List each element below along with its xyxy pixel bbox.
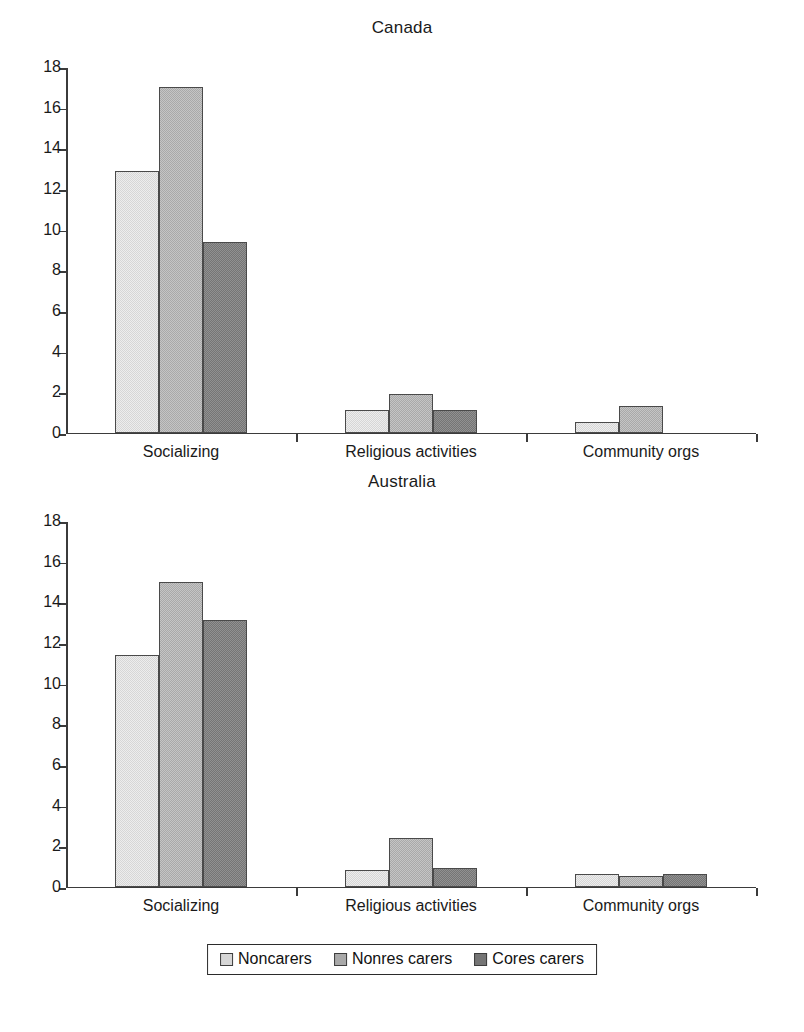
bar xyxy=(203,242,247,432)
bar xyxy=(575,422,619,432)
bar xyxy=(345,870,389,886)
legend-swatch-cores-carers xyxy=(474,953,487,966)
y-axis-tick-label: 12 xyxy=(43,180,61,198)
y-axis-tick-label: 10 xyxy=(43,675,61,693)
x-axis-category-label: Religious activities xyxy=(296,442,526,462)
y-axis-tick-label: 16 xyxy=(43,99,61,117)
y-axis-line xyxy=(66,522,68,888)
x-axis-category-label: Community orgs xyxy=(526,896,756,916)
legend-swatch-noncarers xyxy=(220,953,233,966)
legend-item-noncarers: Noncarers xyxy=(220,950,312,968)
y-axis-tick-label: 6 xyxy=(52,302,61,320)
y-axis-tick-label: 10 xyxy=(43,221,61,239)
y-axis-tick-label: 4 xyxy=(52,797,61,815)
y-axis-line xyxy=(66,68,68,434)
x-axis-tick-mark xyxy=(526,434,528,442)
y-axis-tick-label: 18 xyxy=(43,512,61,530)
x-axis-tick-mark xyxy=(296,888,298,896)
y-axis-tick-label: 0 xyxy=(52,424,61,442)
bar xyxy=(203,620,247,886)
x-axis-category-label: Socializing xyxy=(66,896,296,916)
x-axis-line xyxy=(66,433,756,435)
y-axis-tick-label: 8 xyxy=(52,715,61,733)
x-axis-tick-mark xyxy=(296,434,298,442)
chart-title-australia: Australia xyxy=(0,472,804,492)
legend-label-noncarers: Noncarers xyxy=(238,950,312,968)
bar xyxy=(159,87,203,433)
y-axis-tick-label: 0 xyxy=(52,878,61,896)
x-axis-category-label: Socializing xyxy=(66,442,296,462)
chart-legend: Noncarers Nonres carers Cores carers xyxy=(207,944,597,975)
x-axis-tick-mark xyxy=(756,434,758,442)
legend-label-cores-carers: Cores carers xyxy=(492,950,584,968)
legend-label-nonres-carers: Nonres carers xyxy=(352,950,452,968)
legend-item-cores-carers: Cores carers xyxy=(474,950,584,968)
x-axis-line xyxy=(66,887,756,889)
y-axis-tick-label: 14 xyxy=(43,139,61,157)
y-axis-tick-label: 18 xyxy=(43,58,61,76)
x-axis-tick-mark xyxy=(526,888,528,896)
y-axis-tick-label: 2 xyxy=(52,383,61,401)
y-axis-tick-label: 6 xyxy=(52,756,61,774)
y-axis-tick-label: 12 xyxy=(43,634,61,652)
bar xyxy=(115,655,159,887)
bar xyxy=(433,868,477,886)
x-axis-tick-mark xyxy=(756,888,758,896)
y-axis-tick-label: 14 xyxy=(43,593,61,611)
plot-area-australia: 181614121086420SocializingReligious acti… xyxy=(66,522,756,888)
y-axis-tick-label: 16 xyxy=(43,553,61,571)
y-axis-tick-label: 4 xyxy=(52,343,61,361)
x-axis-category-label: Community orgs xyxy=(526,442,756,462)
legend-item-nonres-carers: Nonres carers xyxy=(334,950,452,968)
bar xyxy=(575,874,619,886)
figure-two-panel-bar-charts: Canada 181614121086420SocializingReligio… xyxy=(0,0,804,1032)
bar xyxy=(619,406,663,432)
y-axis-tick-label: 8 xyxy=(52,261,61,279)
chart-panel-australia: Australia 181614121086420SocializingReli… xyxy=(0,472,804,924)
legend-swatch-nonres-carers xyxy=(334,953,347,966)
x-axis-category-label: Religious activities xyxy=(296,896,526,916)
bar xyxy=(663,874,707,886)
y-axis-tick-label: 2 xyxy=(52,837,61,855)
bar xyxy=(389,394,433,433)
bar xyxy=(159,582,203,887)
bar xyxy=(389,838,433,887)
plot-area-canada: 181614121086420SocializingReligious acti… xyxy=(66,68,756,434)
bar xyxy=(345,410,389,432)
chart-panel-canada: Canada 181614121086420SocializingReligio… xyxy=(0,18,804,470)
bar xyxy=(619,876,663,886)
bar xyxy=(115,171,159,432)
bar xyxy=(433,410,477,432)
chart-title-canada: Canada xyxy=(0,18,804,38)
